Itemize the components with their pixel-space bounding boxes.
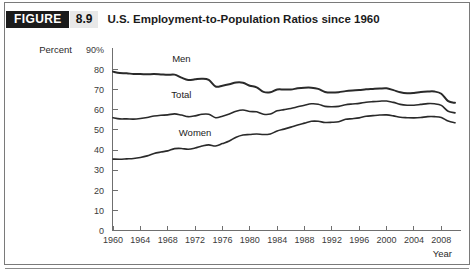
chart-plot-area: 90%80706050403020100Percent1960196419681… (0, 0, 476, 277)
y-tick-label: 50 (94, 125, 104, 135)
x-axis-title: Year (433, 248, 452, 259)
series-line-total (113, 101, 455, 119)
x-tick-label: 1984 (267, 235, 287, 245)
y-tick-label: 10 (94, 206, 104, 216)
series-label-men: Men (172, 53, 190, 64)
x-tick-label: 1964 (130, 235, 150, 245)
x-tick-label: 2000 (377, 235, 397, 245)
y-tick-label: 80 (94, 65, 104, 75)
x-tick-label: 1972 (185, 235, 205, 245)
y-tick-label: 40 (94, 145, 104, 155)
series-label-total: Total (171, 89, 191, 100)
y-axis-title: Percent (39, 44, 72, 55)
x-tick-label: 1968 (158, 235, 178, 245)
x-tick-label: 1980 (240, 235, 260, 245)
x-tick-label: 2008 (431, 235, 451, 245)
y-tick-label: 90% (86, 45, 104, 55)
caption-divider (5, 268, 469, 269)
x-tick-label: 1996 (349, 235, 369, 245)
chart-svg: 90%80706050403020100Percent1960196419681… (0, 0, 476, 277)
series-line-women (113, 115, 455, 159)
series-label-women: Women (179, 127, 212, 138)
y-tick-label: 30 (94, 165, 104, 175)
x-tick-label: 1960 (103, 235, 123, 245)
y-tick-label: 20 (94, 186, 104, 196)
y-tick-label: 70 (94, 85, 104, 95)
chart-text-labels: 90%80706050403020100Percent1960196419681… (39, 44, 452, 259)
x-tick-label: 2004 (404, 235, 424, 245)
series-line-men (113, 72, 455, 103)
figure-container: FIGURE 8.9 U.S. Employment-to-Population… (0, 0, 476, 277)
x-tick-label: 1976 (212, 235, 232, 245)
chart-series-group (113, 72, 455, 160)
x-tick-label: 1992 (322, 235, 342, 245)
x-tick-label: 1988 (295, 235, 315, 245)
y-tick-label: 60 (94, 105, 104, 115)
